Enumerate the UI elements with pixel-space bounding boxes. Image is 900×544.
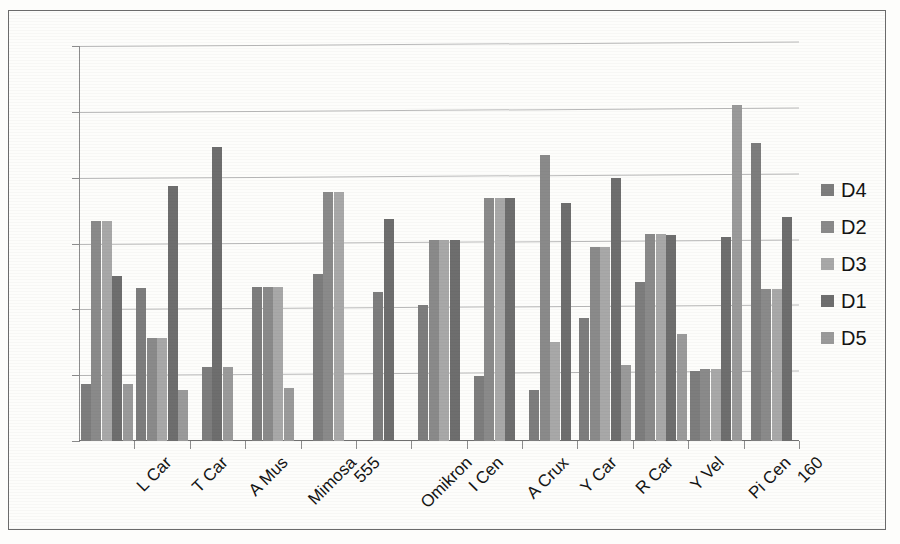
bar [550, 342, 560, 441]
legend-item: D5 [821, 319, 891, 356]
bar [772, 289, 782, 441]
bar [147, 338, 157, 441]
x-axis-tick-label: Y Vel [686, 453, 728, 495]
bar-group [136, 46, 188, 441]
x-tick-mark [190, 441, 191, 449]
legend-item: D3 [821, 245, 891, 282]
x-axis-tick-label: Mimosa [304, 453, 360, 509]
x-tick-mark [301, 441, 302, 449]
bar [418, 305, 428, 441]
y-tick-mark [72, 375, 80, 376]
plot-area: 0.60.50.40.30.20.10 [79, 46, 799, 441]
bar [579, 318, 589, 441]
x-tick-mark [577, 441, 578, 449]
bar [495, 198, 505, 441]
x-axis-tick-label: R Car [632, 453, 678, 499]
legend-swatch-icon [821, 332, 834, 344]
bar-group [202, 46, 233, 441]
bar [102, 221, 112, 441]
x-tick-mark [245, 441, 246, 449]
x-tick-mark [411, 441, 412, 449]
bar [112, 276, 122, 441]
bar [91, 221, 101, 441]
bar [384, 219, 394, 441]
x-axis-tick-label: A Mus [245, 453, 293, 501]
bar-group [252, 46, 294, 441]
bar [202, 367, 212, 441]
bar [136, 288, 146, 441]
bar [323, 192, 333, 441]
bar [334, 192, 344, 441]
bar-group [81, 46, 133, 441]
legend-label: D2 [841, 217, 867, 237]
x-axis-tick-label: T Car [188, 453, 232, 497]
bar [751, 143, 761, 441]
bar [439, 240, 449, 441]
legend-swatch-icon [821, 221, 834, 233]
bar [252, 287, 262, 441]
bar [484, 198, 494, 441]
bar-group [751, 46, 793, 441]
bar [505, 198, 515, 441]
chart-legend: D4D2D3D1D5 [821, 171, 891, 356]
x-axis-tick-label: 555 [351, 453, 385, 487]
bar [157, 338, 167, 441]
bar [168, 186, 178, 441]
y-tick-mark [72, 244, 80, 245]
x-tick-mark [688, 441, 689, 449]
y-tick-mark [72, 178, 80, 179]
bar [123, 384, 133, 441]
bar [711, 369, 721, 441]
x-tick-mark [356, 441, 357, 449]
bar [690, 371, 700, 441]
bar [561, 203, 571, 441]
bar [721, 237, 731, 441]
x-axis-tick-label: L Car [133, 453, 176, 496]
bar [284, 388, 294, 441]
bar [635, 282, 645, 441]
bar [223, 367, 233, 441]
bar [782, 217, 792, 441]
bar [732, 105, 742, 441]
bar-group [313, 46, 344, 441]
bar [645, 234, 655, 441]
bar [429, 240, 439, 441]
legend-swatch-icon [821, 295, 834, 307]
bar [656, 234, 666, 441]
bar-group [474, 46, 516, 441]
bar-group [579, 46, 631, 441]
y-tick-mark [72, 441, 80, 442]
bar-group [529, 46, 571, 441]
bar [450, 240, 460, 441]
legend-item: D1 [821, 282, 891, 319]
bar-group [373, 46, 394, 441]
y-tick-mark [72, 112, 80, 113]
x-tick-mark [467, 441, 468, 449]
bar [621, 365, 631, 441]
bar [590, 247, 600, 441]
bar-group [635, 46, 687, 441]
bar [212, 147, 222, 441]
bar [273, 287, 283, 441]
bar [700, 369, 710, 441]
legend-swatch-icon [821, 184, 834, 196]
bar [263, 287, 273, 441]
bar [600, 247, 610, 441]
x-tick-mark [744, 441, 745, 449]
legend-label: D3 [841, 254, 867, 274]
legend-label: D5 [841, 328, 867, 348]
bar [313, 274, 323, 441]
y-tick-mark [72, 46, 80, 47]
legend-item: D4 [821, 171, 891, 208]
x-axis-tick-label: Pi Cen [745, 453, 795, 503]
bar [761, 289, 771, 441]
x-axis-tick-label: Y Car [576, 453, 621, 498]
bar [178, 390, 188, 441]
bar [666, 235, 676, 441]
x-tick-mark [799, 441, 800, 449]
y-tick-mark [72, 309, 80, 310]
bar-group [690, 46, 742, 441]
bar [529, 390, 539, 441]
legend-label: D1 [841, 291, 867, 311]
bar [540, 155, 550, 441]
